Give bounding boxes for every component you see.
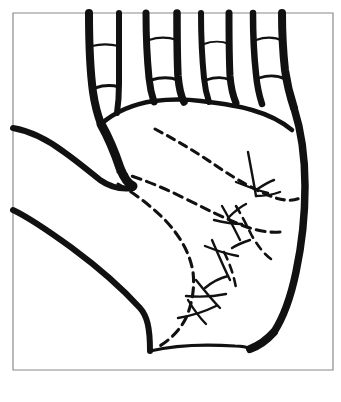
- palm-print-illustration: [0, 0, 341, 402]
- figure-root: Palm print diagram (right hand): [0, 0, 341, 402]
- index-finger-right-edge: [117, 13, 119, 113]
